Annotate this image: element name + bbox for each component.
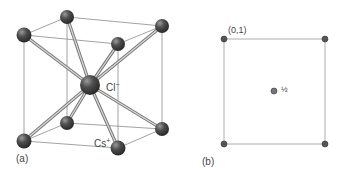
cs-atom [60, 116, 74, 130]
cs-atom [155, 19, 169, 33]
cs-atom [17, 134, 32, 149]
center-atom [271, 88, 277, 94]
cs-atom [111, 141, 126, 156]
cs-atom [17, 28, 32, 43]
corner-atom [221, 141, 227, 147]
cl-atom [80, 75, 100, 95]
corner-atom [221, 36, 227, 42]
cscl-diagram: Cl− Cs+ (a) (0,1) ½ (b) [0, 0, 345, 178]
panel-a-label: (a) [16, 153, 28, 164]
cs-atom [111, 37, 125, 51]
corner-atom [322, 36, 328, 42]
center-fraction-label: ½ [281, 85, 288, 94]
cl-label: Cl− [106, 81, 120, 93]
corner-atom [322, 141, 328, 147]
cs-atom [60, 10, 74, 24]
cs-atom [155, 122, 169, 136]
projection-atoms [221, 36, 328, 147]
panel-b-label: (b) [202, 156, 214, 167]
coordinate-label: (0,1) [228, 25, 247, 35]
